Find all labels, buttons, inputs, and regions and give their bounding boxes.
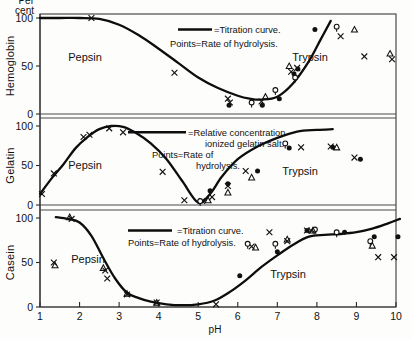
legend-text-titration: =Titration curve. — [214, 25, 281, 35]
y-tick-label: 50 — [21, 60, 33, 72]
data-point-open-circle — [198, 199, 203, 204]
data-point-open-circle — [293, 75, 298, 80]
data-point-x — [298, 144, 304, 150]
y-tick-label: 100 — [15, 120, 33, 132]
percent-label-line2: cent — [15, 5, 34, 16]
data-point-filled-circle — [395, 234, 400, 239]
data-point-filled-circle — [287, 146, 292, 151]
data-point-triangle — [286, 63, 292, 69]
region-label-trypsin: Trypsin — [292, 51, 328, 63]
data-point-triangle — [387, 51, 393, 57]
x-axis-title: pH — [209, 324, 222, 335]
data-point-x — [181, 197, 187, 203]
legend-text-relconc-2: ionized gelatin salt. — [205, 139, 284, 149]
legend-text-points-2: hydrolysis. — [196, 161, 240, 171]
data-point-filled-circle — [208, 188, 213, 193]
region-label-trypsin: Trypsin — [282, 165, 318, 177]
data-point-triangle — [351, 27, 357, 33]
figure-container: 050100Hemoglobin050100Gelatin050100Casei… — [0, 0, 412, 339]
data-point-triangle — [249, 174, 255, 180]
data-point-triangle — [225, 189, 231, 195]
x-tick-label: 9 — [354, 310, 360, 322]
data-point-x — [104, 276, 110, 282]
data-point-x — [172, 70, 178, 76]
titration-rate-figure: 050100Hemoglobin050100Gelatin050100Casei… — [0, 0, 412, 339]
data-point-x — [338, 33, 344, 39]
y-tick-label: 50 — [21, 256, 33, 268]
data-point-open-circle — [334, 24, 339, 29]
data-point-x — [389, 56, 395, 62]
data-point-filled-circle — [275, 249, 280, 254]
data-point-open-circle — [249, 100, 254, 105]
y-axis-title: Hemoglobin — [4, 36, 16, 97]
data-point-open-circle — [334, 230, 339, 235]
data-point-filled-circle — [342, 230, 347, 235]
data-point-x — [352, 155, 358, 161]
y-tick-label: 0 — [27, 108, 33, 120]
data-point-filled-circle — [372, 234, 377, 239]
data-point-filled-circle — [312, 27, 317, 32]
data-point-open-circle — [245, 241, 250, 246]
x-tick-label: 10 — [390, 310, 402, 322]
legend-text-titration: =Titration curve. — [177, 226, 244, 236]
region-label-trypsin: Trypsin — [270, 268, 306, 280]
data-point-x — [213, 301, 219, 307]
data-point-triangle — [100, 265, 106, 271]
data-point-open-circle — [273, 88, 278, 93]
data-point-x — [361, 54, 367, 60]
data-point-filled-circle — [305, 228, 310, 233]
x-tick-label: 4 — [156, 310, 162, 322]
y-tick-label: 0 — [27, 301, 33, 313]
y-tick-label: 50 — [21, 159, 33, 171]
x-tick-label: 5 — [195, 310, 201, 322]
region-label-pepsin: Pepsin — [68, 51, 102, 63]
data-point-open-circle — [273, 241, 278, 246]
y-axis-title: Gelatin — [4, 147, 16, 183]
x-tick-label: 2 — [77, 310, 83, 322]
data-point-filled-circle — [225, 181, 230, 186]
data-point-x — [120, 129, 126, 135]
x-tick-label: 6 — [235, 310, 241, 322]
y-axis-title: Casein — [4, 245, 16, 280]
legend-text-relconc-1: =Relative concentration — [188, 128, 285, 138]
data-point-x — [160, 169, 166, 175]
legend-text-points: Points=Rate of hydrolysis. — [170, 39, 278, 49]
data-point-x — [243, 168, 249, 174]
data-point-filled-circle — [295, 66, 300, 71]
data-point-filled-circle — [255, 169, 260, 174]
data-point-filled-circle — [227, 103, 232, 108]
legend-text-points-1: Points=Rate of — [152, 150, 214, 160]
region-label-pepsin: Pepsin — [71, 253, 105, 265]
data-point-x — [209, 194, 215, 200]
region-label-pepsin: Pepsin — [68, 159, 102, 171]
x-tick-label: 3 — [116, 310, 122, 322]
x-tick-label: 1 — [37, 310, 43, 322]
legend-text-points: Points=Rate of hydrolysis. — [128, 238, 236, 248]
data-point-filled-circle — [260, 103, 265, 108]
data-point-x — [267, 229, 273, 235]
y-tick-label: 100 — [15, 212, 33, 224]
data-point-x — [375, 254, 381, 260]
data-point-filled-circle — [277, 96, 282, 101]
x-tick-label: 7 — [274, 310, 280, 322]
x-tick-label: 8 — [314, 310, 320, 322]
data-point-filled-circle — [237, 273, 242, 278]
data-point-filled-circle — [358, 157, 363, 162]
y-tick-label: 0 — [27, 199, 33, 211]
